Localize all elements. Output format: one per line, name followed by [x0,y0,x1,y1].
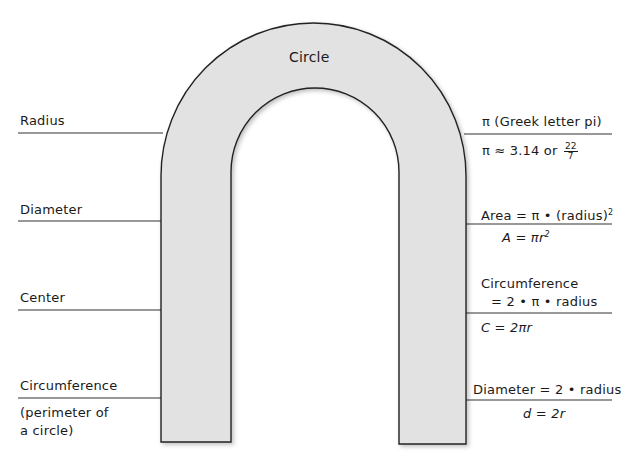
label-circumference-note-1: (perimeter of [20,405,109,421]
label-circumference-symbolic: C = 2πr [481,320,532,336]
label-area: Area = π • (radius)2 [481,205,613,224]
label-diameter-symbolic: d = 2r [523,406,565,422]
label-diameter: Diameter [20,202,82,218]
pi-approx-text: π ≈ 3.14 or [482,143,558,158]
label-radius: Radius [20,113,65,129]
label-circumference-title: Circumference [481,276,578,292]
area-formula-text: Area = π • (radius) [481,208,608,223]
area-exponent: 2 [608,208,613,217]
diagram-title: Circle [289,49,330,65]
fraction-denominator: 7 [564,152,578,161]
label-pi: π (Greek letter pi) [482,114,602,130]
label-center: Center [20,290,65,306]
label-area-symbolic: A = πr2 [502,227,550,246]
area-symbolic-exponent: 2 [544,230,549,239]
circle-arch-shape [161,23,466,444]
label-circumference-formula: = 2 • π • radius [491,294,597,310]
label-pi-value: π ≈ 3.14 or 22 7 [482,142,578,161]
fraction-22-7: 22 7 [564,142,578,161]
area-symbolic-text: A = πr [502,230,544,245]
label-diameter-formula: Diameter = 2 • radius [473,382,621,398]
label-circumference: Circumference [20,378,117,394]
label-circumference-note-2: a circle) [20,423,74,439]
